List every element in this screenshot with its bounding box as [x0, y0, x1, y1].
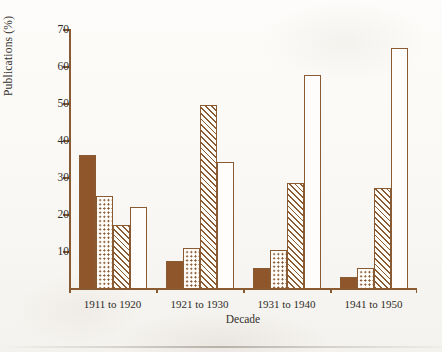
bar-hatched-3 [287, 183, 304, 289]
y-tick-label: 60 [58, 60, 70, 72]
bar-group-3: 1931 to 1940 [243, 22, 330, 288]
y-tick-label: 50 [58, 97, 70, 109]
bar-dotted-1 [96, 196, 113, 289]
bar-hatched-4 [374, 188, 391, 288]
x-axis-title: Decade [69, 313, 417, 325]
x-tick-mark [69, 288, 71, 293]
x-axis-label-4: 1941 to 1950 [344, 298, 402, 310]
bar-solid-3 [253, 268, 270, 288]
bar-solid-1 [79, 155, 96, 288]
bar-dotted-4 [357, 268, 374, 288]
bar-group-1: 1911 to 1920 [69, 22, 156, 288]
y-axis-title: Publications (%) [2, 0, 14, 96]
x-axis-label-2: 1921 to 1930 [170, 298, 228, 310]
bar-hatched-2 [200, 105, 217, 288]
x-tick-mark [156, 288, 158, 293]
bar-solid-4 [340, 277, 357, 288]
bar-hatched-1 [113, 225, 130, 288]
bar-open-1 [130, 207, 147, 289]
bar-group-2: 1921 to 1930 [156, 22, 243, 288]
bar-groups: 1911 to 19201921 to 19301931 to 19401941… [69, 22, 417, 288]
x-axis-label-3: 1931 to 1940 [257, 298, 315, 310]
y-tick-label: 70 [58, 23, 70, 35]
x-tick-mark [243, 288, 245, 293]
page-edge-line [0, 346, 442, 348]
plot-area: 10203040506070 1911 to 19201921 to 19301… [69, 22, 417, 290]
x-tick-mark [416, 288, 418, 293]
y-tick-label: 20 [58, 208, 70, 220]
x-axis-label-1: 1911 to 1920 [84, 298, 142, 310]
x-tick-mark [330, 288, 332, 293]
y-tick-label: 10 [58, 245, 70, 257]
y-tick-label: 30 [58, 171, 70, 183]
y-tick-label: 40 [58, 134, 70, 146]
bar-open-3 [304, 75, 321, 288]
publications-by-decade-chart: Publications (%) 10203040506070 1911 to … [0, 0, 442, 352]
bar-open-2 [217, 162, 234, 288]
bar-group-4: 1941 to 1950 [330, 22, 417, 288]
bar-open-4 [391, 48, 408, 289]
bar-dotted-2 [183, 248, 200, 289]
bar-solid-2 [166, 261, 183, 289]
bar-dotted-3 [270, 250, 287, 289]
